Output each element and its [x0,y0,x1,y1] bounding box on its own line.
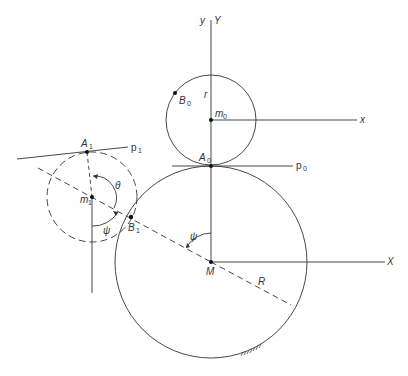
fixed-hatching [241,344,261,356]
label-theta: θ [115,180,121,191]
label-x: x [359,114,366,125]
label-p1: p [131,142,137,153]
rolling-circle-diagram: y Y r B 0 m 0 x A 0 p 0 A 1 p 1 θ m 1 ψ … [0,0,408,376]
label-A0-sub: 0 [207,157,211,164]
label-p0: p [296,160,302,171]
label-p1-sub: 1 [138,147,142,154]
radius-A1-m1 [87,152,92,197]
point-A0 [209,164,213,168]
label-M: M [206,266,215,277]
tangent-p1 [17,147,128,159]
label-m0-sub: 0 [223,113,227,120]
point-B0 [173,91,177,95]
label-A1: A [80,138,88,149]
label-B1-sub: 1 [136,227,140,234]
label-B0-sub: 0 [187,100,191,107]
label-A1-sub: 1 [89,143,93,150]
label-X: X [386,256,394,267]
label-psi-m1: ψ [103,225,111,236]
label-R: R [258,276,265,287]
point-M [209,260,213,264]
label-p0-sub: 0 [303,165,307,172]
point-B1 [129,215,133,219]
label-A0: A [198,152,206,163]
label-m1-sub: 1 [88,199,92,206]
label-Y: Y [214,15,222,26]
label-B0: B [179,95,186,106]
label-y: y [199,15,206,26]
point-m0 [209,118,213,122]
theta-arc [93,176,116,208]
label-psi-M: ψ [190,231,198,242]
center-line-dashed [38,168,211,262]
label-B1: B [128,222,135,233]
theta-arrow [93,174,98,179]
radius-R [211,262,291,305]
point-A1 [85,150,89,154]
psi-arc-m1 [92,212,118,226]
label-r: r [204,89,208,100]
